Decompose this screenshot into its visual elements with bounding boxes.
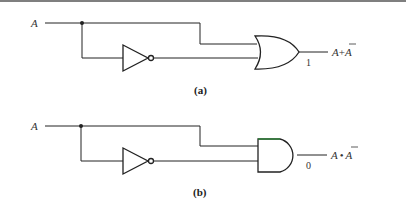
- circuit-a: A 1 A+A (a): [30, 17, 356, 97]
- inverter-bubble-a: [149, 56, 154, 61]
- wire-b-to-inverter: [81, 126, 123, 161]
- wire-a-direct: [45, 23, 257, 44]
- svg-text:A+A: A+A: [331, 46, 352, 58]
- logic-diagram: A 1 A+A (a) A 0 A•A: [0, 0, 406, 207]
- caption-a: (a): [194, 84, 207, 97]
- caption-b: (b): [193, 186, 207, 199]
- and-gate: [258, 139, 293, 172]
- inverter-gate-b: [123, 148, 148, 174]
- output-value-b: 0: [306, 160, 311, 171]
- wire-a-to-inverter: [82, 23, 123, 58]
- circuit-b: A 0 A•A (b): [30, 120, 358, 199]
- output-expression-b: A•A: [330, 147, 358, 161]
- svg-text:A•A: A•A: [330, 149, 353, 161]
- inverter-bubble-b: [149, 159, 154, 164]
- input-label-a: A: [30, 17, 38, 29]
- or-gate: [255, 36, 299, 69]
- output-expression-a: A+A: [331, 44, 356, 58]
- wire-b-direct: [45, 126, 258, 146]
- output-value-a: 1: [306, 57, 311, 68]
- input-label-b: A: [30, 120, 38, 132]
- inverter-gate-a: [123, 45, 148, 71]
